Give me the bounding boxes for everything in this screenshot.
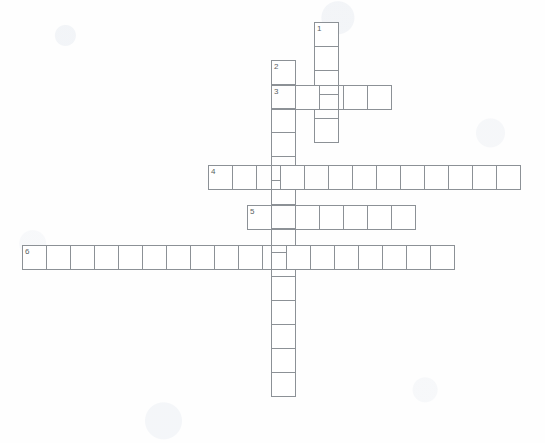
clue-number: 4 xyxy=(211,167,215,176)
crossword-cell[interactable] xyxy=(118,245,143,270)
crossword-cell[interactable] xyxy=(448,165,473,190)
clue-number: 6 xyxy=(25,247,29,256)
crossword-cell[interactable] xyxy=(271,372,296,397)
crossword-cell[interactable] xyxy=(190,245,215,270)
crossword-cell[interactable] xyxy=(262,245,287,270)
word-entry-1-down: 1 xyxy=(314,22,339,143)
crossword-cell[interactable] xyxy=(424,165,449,190)
crossword-cell[interactable] xyxy=(314,118,339,143)
crossword-cell[interactable] xyxy=(271,276,296,301)
crossword-cell[interactable] xyxy=(430,245,455,270)
crossword-cell[interactable] xyxy=(232,165,257,190)
crossword-cell[interactable] xyxy=(496,165,521,190)
crossword-puzzle: 123456 xyxy=(0,0,545,443)
crossword-cell[interactable]: 4 xyxy=(208,165,233,190)
crossword-grid: 123456 xyxy=(0,0,545,443)
clue-number: 1 xyxy=(317,24,321,33)
crossword-cell[interactable] xyxy=(328,165,353,190)
crossword-cell[interactable] xyxy=(352,165,377,190)
crossword-cell[interactable]: 2 xyxy=(271,60,296,85)
word-entry-3-across: 3 xyxy=(271,85,392,110)
crossword-cell[interactable] xyxy=(319,205,344,230)
crossword-cell[interactable] xyxy=(367,205,392,230)
crossword-cell[interactable] xyxy=(391,205,416,230)
word-entry-5-across: 5 xyxy=(247,205,416,230)
crossword-cell[interactable] xyxy=(214,245,239,270)
crossword-cell[interactable] xyxy=(142,245,167,270)
crossword-cell[interactable]: 6 xyxy=(22,245,47,270)
crossword-cell[interactable] xyxy=(343,85,368,110)
crossword-cell[interactable] xyxy=(310,245,335,270)
crossword-cell[interactable] xyxy=(286,245,311,270)
crossword-cell[interactable] xyxy=(256,165,281,190)
crossword-cell[interactable] xyxy=(46,245,71,270)
crossword-cell[interactable] xyxy=(70,245,95,270)
crossword-cell[interactable] xyxy=(472,165,497,190)
crossword-cell[interactable] xyxy=(367,85,392,110)
clue-number: 5 xyxy=(250,207,254,216)
word-entry-6-across: 6 xyxy=(22,245,455,270)
crossword-cell[interactable] xyxy=(406,245,431,270)
crossword-cell[interactable] xyxy=(271,205,296,230)
crossword-cell[interactable]: 5 xyxy=(247,205,272,230)
crossword-cell[interactable] xyxy=(334,245,359,270)
word-entry-4-across: 4 xyxy=(208,165,521,190)
crossword-cell[interactable] xyxy=(280,165,305,190)
crossword-cell[interactable] xyxy=(238,245,263,270)
crossword-cell[interactable] xyxy=(319,85,344,110)
clue-number: 2 xyxy=(274,62,278,71)
crossword-cell[interactable] xyxy=(376,165,401,190)
crossword-cell[interactable] xyxy=(271,108,296,133)
crossword-cell[interactable] xyxy=(304,165,329,190)
clue-number: 3 xyxy=(274,87,278,96)
crossword-cell[interactable] xyxy=(94,245,119,270)
crossword-cell[interactable] xyxy=(343,205,368,230)
crossword-cell[interactable] xyxy=(271,132,296,157)
crossword-cell[interactable] xyxy=(314,46,339,71)
crossword-cell[interactable]: 1 xyxy=(314,22,339,47)
crossword-cell[interactable] xyxy=(400,165,425,190)
crossword-cell[interactable] xyxy=(295,85,320,110)
crossword-cell[interactable] xyxy=(271,348,296,373)
crossword-cell[interactable] xyxy=(358,245,383,270)
crossword-cell[interactable] xyxy=(166,245,191,270)
crossword-cell[interactable] xyxy=(271,300,296,325)
crossword-cell[interactable] xyxy=(295,205,320,230)
crossword-cell[interactable] xyxy=(271,324,296,349)
crossword-cell[interactable]: 3 xyxy=(271,85,296,110)
crossword-cell[interactable] xyxy=(382,245,407,270)
